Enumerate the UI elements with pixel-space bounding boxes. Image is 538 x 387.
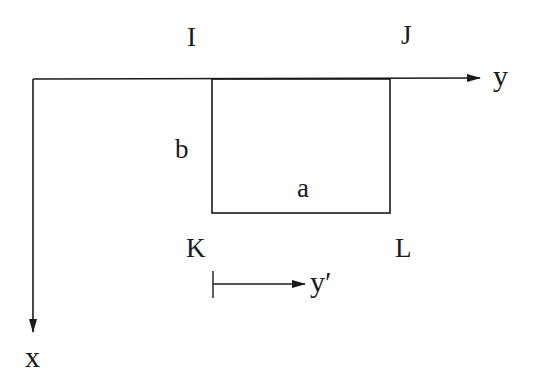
height-label-b: b bbox=[175, 136, 189, 163]
corner-label-l: L bbox=[395, 235, 412, 262]
y-axis-label: y bbox=[493, 61, 508, 91]
corner-label-j: J bbox=[401, 22, 412, 49]
y-prime-axis-label: y′ bbox=[310, 267, 332, 297]
width-label-a: a bbox=[297, 175, 309, 202]
corner-label-k: K bbox=[186, 235, 206, 262]
x-axis-label: x bbox=[25, 342, 40, 372]
coordinate-diagram bbox=[0, 0, 538, 387]
corner-label-i: I bbox=[187, 24, 196, 51]
